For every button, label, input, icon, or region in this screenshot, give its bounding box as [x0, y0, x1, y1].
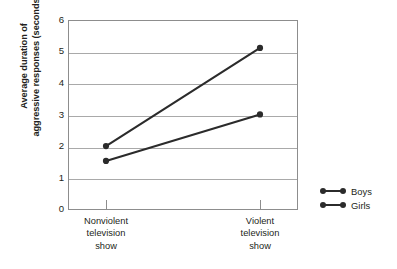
series-boys-point-violent [257, 45, 263, 51]
series-boys-line [106, 48, 260, 146]
series-girls-point-violent [257, 111, 263, 117]
series-boys [103, 45, 263, 149]
line-chart-figure: Average duration of aggressive responses… [0, 0, 397, 269]
y-tick-label-0: 0 [50, 204, 64, 214]
y-tick-label-3: 3 [50, 110, 64, 120]
x-tick-label-violent-line-2: television [205, 227, 315, 239]
x-tick-label-nonviolent-line-1: Nonviolent [51, 215, 161, 227]
x-tick-label-nonviolent-line-3: show [51, 240, 161, 252]
x-tick-label-nonviolent: Nonviolent television show [51, 215, 161, 252]
x-tickmark-nonviolent [106, 200, 107, 209]
series-girls-point-nonviolent [103, 158, 109, 164]
y-tick-label-2: 2 [50, 141, 64, 151]
series-boys-point-nonviolent [103, 143, 109, 149]
x-tick-label-nonviolent-line-2: television [51, 227, 161, 239]
y-axis-title-line-2: aggressive responses (seconds) [30, 0, 42, 137]
x-tick-label-violent-line-3: show [205, 240, 315, 252]
legend-line-marker-icon-boys [320, 186, 346, 196]
data-series-layer [69, 21, 299, 211]
x-tickmark-violent [260, 200, 261, 209]
y-tick-label-5: 5 [50, 46, 64, 56]
series-girls-line [106, 114, 260, 161]
legend-line-marker-icon-girls [320, 200, 346, 210]
y-tick-label-4: 4 [50, 78, 64, 88]
x-tick-label-violent-line-1: Violent [205, 215, 315, 227]
legend-label-girls: Girls [351, 200, 370, 211]
y-tick-label-1: 1 [50, 173, 64, 183]
legend-row-girls: Girls [320, 198, 392, 212]
legend-label-boys: Boys [351, 186, 372, 197]
y-axis-title-line-1: Average duration of [18, 23, 30, 109]
legend-row-boys: Boys [320, 184, 392, 198]
y-axis-title: Average duration of aggressive responses… [13, 0, 47, 161]
plot-area [68, 20, 298, 210]
series-girls [103, 111, 263, 164]
y-tick-label-6: 6 [50, 15, 64, 25]
x-tick-label-violent: Violent television show [205, 215, 315, 252]
chart-legend: Boys Girls [320, 184, 392, 212]
